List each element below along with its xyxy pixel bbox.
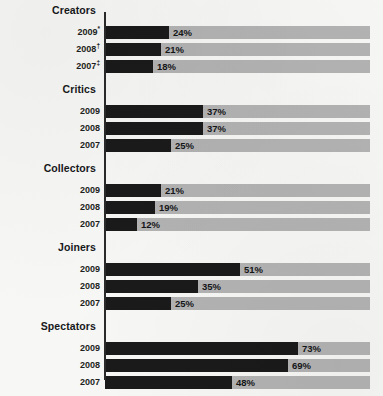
bar-row: 200951% [0, 263, 383, 276]
bar-fill [105, 297, 171, 310]
social-technographics-ladder-chart: Creators2009*24%2008†21%2007‡18%Critics2… [0, 0, 383, 396]
year-label: 2008 [0, 122, 100, 135]
bar-row: 200921% [0, 184, 383, 197]
bar-row: 200819% [0, 201, 383, 214]
group-label: Spectators [0, 320, 96, 332]
bar-value-label: 21% [161, 184, 184, 197]
bar-fill [105, 218, 137, 231]
bar-value-label: 48% [232, 376, 255, 389]
bar-fill [105, 359, 288, 372]
bar-row: 2008†21% [0, 43, 383, 56]
year-label: 2009 [0, 105, 100, 118]
bar-track: 48% [105, 376, 370, 389]
year-label: 2009* [0, 26, 100, 39]
bar-track: 25% [105, 139, 370, 152]
bar-fill [105, 184, 161, 197]
year-label: 2008 [0, 359, 100, 372]
bar-fill [105, 376, 232, 389]
year-label: 2008† [0, 43, 100, 56]
bar-fill [105, 43, 161, 56]
bar-row: 2007‡18% [0, 60, 383, 73]
year-label: 2009 [0, 342, 100, 355]
vertical-axis-line [104, 12, 106, 380]
bar-fill [105, 139, 171, 152]
bar-row: 2009*24% [0, 26, 383, 39]
bar-fill [105, 26, 169, 39]
year-label: 2009 [0, 263, 100, 276]
bar-value-label: 21% [161, 43, 184, 56]
bar-row: 200937% [0, 105, 383, 118]
year-label: 2007 [0, 218, 100, 231]
bar-value-label: 37% [203, 122, 226, 135]
bar-value-label: 35% [198, 280, 221, 293]
group-label: Collectors [0, 162, 96, 174]
group-label: Joiners [0, 241, 96, 253]
bar-row: 200837% [0, 122, 383, 135]
bar-value-label: 73% [298, 342, 321, 355]
chart-plot-area: Creators2009*24%2008†21%2007‡18%Critics2… [0, 0, 383, 396]
footnote-marker: * [97, 25, 100, 32]
bar-fill [105, 60, 153, 73]
year-label: 2007‡ [0, 60, 100, 73]
bar-track: 73% [105, 342, 370, 355]
bar-track: 21% [105, 184, 370, 197]
bar-track: 69% [105, 359, 370, 372]
bar-track: 37% [105, 105, 370, 118]
bar-row: 200712% [0, 218, 383, 231]
bar-fill [105, 122, 203, 135]
bar-row: 200725% [0, 297, 383, 310]
bar-value-label: 19% [155, 201, 178, 214]
bar-value-label: 12% [137, 218, 160, 231]
bar-fill [105, 342, 298, 355]
bar-row: 200748% [0, 376, 383, 389]
bar-value-label: 24% [169, 26, 192, 39]
bar-track: 35% [105, 280, 370, 293]
bar-row: 200835% [0, 280, 383, 293]
group-label: Critics [0, 83, 96, 95]
bar-track: 12% [105, 218, 370, 231]
bar-fill [105, 201, 155, 214]
bar-fill [105, 105, 203, 118]
year-label: 2007 [0, 376, 100, 389]
bar-track: 51% [105, 263, 370, 276]
group-label: Creators [0, 4, 96, 16]
year-label: 2008 [0, 201, 100, 214]
bar-value-label: 25% [171, 139, 194, 152]
bar-value-label: 51% [240, 263, 263, 276]
bar-track: 24% [105, 26, 370, 39]
bar-track: 18% [105, 60, 370, 73]
footnote-marker: † [96, 42, 100, 49]
bar-fill [105, 280, 198, 293]
bar-value-label: 69% [288, 359, 311, 372]
bar-track: 25% [105, 297, 370, 310]
bar-value-label: 25% [171, 297, 194, 310]
bar-value-label: 18% [153, 60, 176, 73]
year-label: 2007 [0, 297, 100, 310]
footnote-marker: ‡ [96, 59, 100, 66]
year-label: 2008 [0, 280, 100, 293]
bar-track: 21% [105, 43, 370, 56]
year-label: 2009 [0, 184, 100, 197]
bar-value-label: 37% [203, 105, 226, 118]
bar-row: 200869% [0, 359, 383, 372]
bar-track: 37% [105, 122, 370, 135]
bar-row: 200725% [0, 139, 383, 152]
bar-track: 19% [105, 201, 370, 214]
bar-row: 200973% [0, 342, 383, 355]
year-label: 2007 [0, 139, 100, 152]
bar-fill [105, 263, 240, 276]
